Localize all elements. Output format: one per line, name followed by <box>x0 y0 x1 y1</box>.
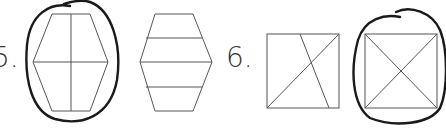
answer-circle-5 <box>26 1 118 122</box>
square-equal-triangles[interactable] <box>365 34 437 108</box>
hexagon-quarters[interactable] <box>33 14 108 111</box>
answer-circle-6 <box>354 9 446 123</box>
shapes-canvas <box>0 0 446 132</box>
square-unequal[interactable] <box>267 34 339 108</box>
hexagon-bands[interactable] <box>140 14 212 111</box>
